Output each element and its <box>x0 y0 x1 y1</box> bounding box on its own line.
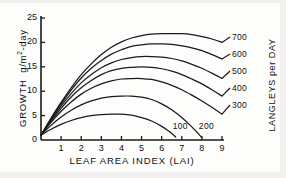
series-label-400: 400 <box>232 83 247 93</box>
secondary-y-axis-title: LANGLEYS per DAY <box>267 25 277 145</box>
series-label-100: 100 <box>173 121 188 131</box>
x-axis-title: LEAF AREA INDEX (LAI) <box>41 155 223 166</box>
y-tick-label: 0 <box>19 134 37 144</box>
y-tick-label: 25 <box>19 12 37 22</box>
leader-line-400 <box>222 88 230 96</box>
top-border-strip <box>0 0 286 3</box>
x-tick-label: 1 <box>53 143 69 153</box>
y-tick-label: 20 <box>19 36 37 46</box>
y-tick-label: 5 <box>19 110 37 120</box>
leader-line-500 <box>222 71 230 79</box>
y-tick-label: 15 <box>19 61 37 71</box>
x-tick-label: 5 <box>134 143 150 153</box>
x-tick-label: 6 <box>154 143 170 153</box>
x-tick-label: 4 <box>113 143 129 153</box>
bottom-border-strip <box>0 172 286 178</box>
leader-line-300 <box>222 105 230 114</box>
x-tick-label: 2 <box>73 143 89 153</box>
y-axis-units-exponent: 2 <box>16 51 23 55</box>
leader-line-600 <box>222 54 230 59</box>
x-tick-label: 3 <box>93 143 109 153</box>
right-border-strip <box>280 0 286 178</box>
series-label-200: 200 <box>199 121 214 131</box>
series-label-300: 300 <box>232 100 247 110</box>
series-curve-400 <box>41 67 222 135</box>
x-tick-label: 7 <box>174 143 190 153</box>
x-tick-label: 8 <box>194 143 210 153</box>
series-curve-300 <box>41 78 222 135</box>
x-tick-label: 9 <box>214 143 230 153</box>
growth-vs-lai-chart: GROWTH g/m2-day LANGLEYS per DAY LEAF AR… <box>0 0 286 178</box>
y-tick-label: 10 <box>19 85 37 95</box>
series-label-600: 600 <box>232 49 247 59</box>
series-label-500: 500 <box>232 66 247 76</box>
series-label-700: 700 <box>232 32 247 42</box>
series-curve-200 <box>41 96 202 138</box>
leader-line-700 <box>222 37 230 42</box>
